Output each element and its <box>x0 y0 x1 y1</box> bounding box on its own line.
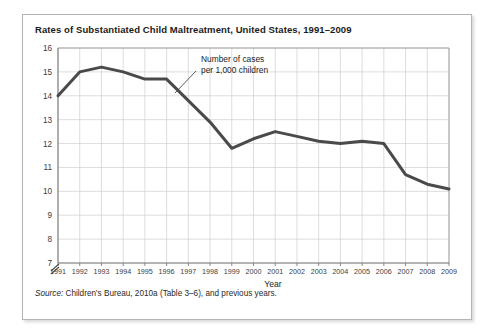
x-tick-1993: 1993 <box>93 267 109 276</box>
x-tick-1995: 1995 <box>137 267 153 276</box>
y-tick-10: 10 <box>43 187 53 196</box>
x-tick-2001: 2001 <box>267 267 283 276</box>
x-tick-2005: 2005 <box>354 267 370 276</box>
x-tick-1994: 1994 <box>115 267 131 276</box>
line-chart-svg: 78910111213141516 1991199219931994199519… <box>23 15 473 321</box>
y-tick-9: 9 <box>47 211 52 220</box>
y-tick-8: 8 <box>47 235 52 244</box>
x-tick-1996: 1996 <box>159 267 175 276</box>
x-tick-2003: 2003 <box>311 267 327 276</box>
y-tick-11: 11 <box>44 163 53 172</box>
x-tick-2002: 2002 <box>289 267 305 276</box>
figure-container: Rates of Substantiated Child Maltreatmen… <box>22 14 472 320</box>
x-tick-2009: 2009 <box>441 267 457 276</box>
y-tick-14: 14 <box>43 92 53 101</box>
x-tick-2008: 2008 <box>419 267 435 276</box>
source-text: Children's Bureau, 2010a (Table 3–6), an… <box>63 289 277 298</box>
chart-gridlines <box>58 48 449 263</box>
source-label: Source: <box>35 289 63 298</box>
y-tick-16: 16 <box>43 44 53 53</box>
x-tick-2004: 2004 <box>332 267 348 276</box>
source-note: Source: Children's Bureau, 2010a (Table … <box>35 289 277 298</box>
y-tick-13: 13 <box>43 116 53 125</box>
y-tick-12: 12 <box>43 140 53 149</box>
x-tick-2000: 2000 <box>246 267 262 276</box>
y-axis-tick-labels: 78910111213141516 <box>43 44 53 268</box>
x-tick-1999: 1999 <box>224 267 240 276</box>
x-tick-1992: 1992 <box>72 267 88 276</box>
callout-line-1: Number of cases <box>201 54 264 64</box>
x-tick-2006: 2006 <box>376 267 392 276</box>
x-tick-1997: 1997 <box>180 267 196 276</box>
x-tick-2007: 2007 <box>398 267 414 276</box>
y-tick-15: 15 <box>43 68 53 77</box>
callout-line-2: per 1,000 children <box>201 65 268 75</box>
x-axis-tick-labels: 1991199219931994199519961997199819992000… <box>50 267 457 276</box>
x-tick-1998: 1998 <box>202 267 218 276</box>
chart-plot-area: 78910111213141516 1991199219931994199519… <box>23 15 473 321</box>
x-axis-label: Year <box>264 279 282 289</box>
series-callout-annotation: Number of casesper 1,000 children <box>175 54 268 93</box>
